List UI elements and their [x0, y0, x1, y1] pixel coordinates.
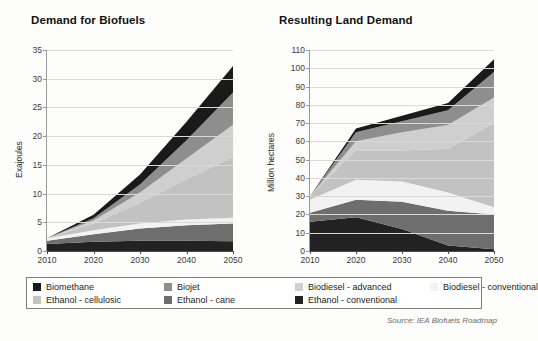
- y-tick-mark: [306, 160, 310, 161]
- legend-label: Biodiesel - conventional: [443, 282, 538, 292]
- y-tick-label: 80: [296, 101, 305, 110]
- x-tick-label: 2040: [177, 256, 196, 265]
- legend-swatch-icon: [430, 283, 438, 291]
- chart-title-demand: Demand for Biofuels: [31, 14, 145, 26]
- stacked-areas-demand: [47, 50, 233, 251]
- y-tick-mark: [306, 87, 310, 88]
- legend-item: Biomethane: [33, 282, 164, 292]
- y-tick-label: 100: [291, 64, 305, 73]
- y-tick-mark: [43, 194, 47, 195]
- legend-label: Ethanol - cellulosic: [46, 295, 121, 305]
- legend-grid: BiomethaneBiojetBiodiesel - advancedBiod…: [27, 278, 481, 308]
- y-tick-label: 10: [33, 189, 42, 198]
- y-tick-label: 20: [296, 210, 305, 219]
- grid-line: [47, 165, 233, 166]
- y-tick-label: 10: [296, 228, 305, 237]
- y-tick-label: 110: [291, 46, 305, 55]
- y-tick-mark: [43, 222, 47, 223]
- y-axis-label-land: Million hectares: [266, 133, 276, 192]
- grid-line: [47, 194, 233, 195]
- chart-panel-demand: Demand for Biofuels Exajoules 0510152025…: [0, 0, 255, 272]
- y-tick-mark: [306, 68, 310, 69]
- x-tick-mark: [402, 251, 403, 254]
- y-tick-label: 60: [296, 137, 305, 146]
- legend-item: Ethanol - cane: [164, 295, 295, 305]
- x-tick-label: 2050: [224, 256, 243, 265]
- y-tick-label: 40: [296, 174, 305, 183]
- grid-line: [47, 136, 233, 137]
- legend-swatch-icon: [164, 296, 172, 304]
- charts-container: Demand for Biofuels Exajoules 0510152025…: [0, 0, 509, 272]
- grid-line: [310, 196, 494, 197]
- x-tick-label: 2050: [485, 256, 504, 265]
- legend-swatch-icon: [295, 296, 303, 304]
- y-tick-mark: [306, 141, 310, 142]
- y-tick-label: 30: [296, 192, 305, 201]
- y-tick-label: 25: [33, 103, 42, 112]
- legend-label: Biojet: [177, 282, 200, 292]
- legend-swatch-icon: [33, 283, 41, 291]
- grid-line: [47, 222, 233, 223]
- grid-line: [310, 87, 494, 88]
- x-tick-label: 2010: [38, 256, 57, 265]
- x-tick-mark: [310, 251, 311, 254]
- legend-label: Biomethane: [46, 282, 94, 292]
- plot-area-demand: 0510152025303520102020203020402050: [46, 50, 233, 252]
- grid-line: [310, 214, 494, 215]
- stacked-areas-land: [310, 50, 494, 251]
- grid-line: [310, 233, 494, 234]
- legend-swatch-icon: [164, 283, 172, 291]
- grid-line: [47, 50, 233, 51]
- y-tick-label: 35: [33, 46, 42, 55]
- y-tick-label: 90: [296, 82, 305, 91]
- y-tick-mark: [43, 107, 47, 108]
- x-tick-label: 2020: [84, 256, 103, 265]
- y-axis-label-demand: Exajoules: [14, 141, 24, 178]
- x-tick-mark: [356, 251, 357, 254]
- x-tick-label: 2040: [439, 256, 458, 265]
- grid-line: [310, 50, 494, 51]
- y-tick-mark: [306, 233, 310, 234]
- legend: BiomethaneBiojetBiodiesel - advancedBiod…: [26, 277, 482, 309]
- y-tick-mark: [43, 136, 47, 137]
- y-tick-label: 30: [33, 74, 42, 83]
- chart-title-land: Resulting Land Demand: [279, 14, 413, 26]
- legend-label: Ethanol - conventional: [308, 295, 397, 305]
- grid-line: [310, 141, 494, 142]
- x-tick-mark: [494, 251, 495, 254]
- x-tick-mark: [233, 251, 234, 254]
- grid-line: [310, 68, 494, 69]
- y-tick-mark: [43, 165, 47, 166]
- legend-swatch-icon: [33, 296, 41, 304]
- source-note: Source: IEA Biofuels Roadmap: [387, 316, 497, 325]
- x-tick-mark: [187, 251, 188, 254]
- legend-item: Ethanol - conventional: [295, 295, 430, 305]
- y-tick-label: 0: [300, 247, 305, 256]
- y-tick-mark: [43, 50, 47, 51]
- legend-label: Ethanol - cane: [177, 295, 235, 305]
- x-tick-label: 2030: [393, 256, 412, 265]
- x-tick-mark: [47, 251, 48, 254]
- grid-line: [310, 123, 494, 124]
- x-tick-mark: [94, 251, 95, 254]
- grid-line: [310, 105, 494, 106]
- y-tick-label: 20: [33, 132, 42, 141]
- legend-item: Biodiesel - advanced: [295, 282, 430, 292]
- x-tick-label: 2020: [347, 256, 366, 265]
- legend-item: Biojet: [164, 282, 295, 292]
- y-tick-label: 50: [296, 155, 305, 164]
- x-tick-label: 2010: [301, 256, 320, 265]
- y-tick-label: 5: [37, 218, 42, 227]
- x-tick-mark: [140, 251, 141, 254]
- y-tick-mark: [306, 105, 310, 106]
- y-tick-mark: [306, 178, 310, 179]
- y-tick-label: 70: [296, 119, 305, 128]
- plot-area-land: 0102030405060708090100110201020202030204…: [309, 50, 494, 252]
- y-tick-mark: [306, 50, 310, 51]
- y-tick-label: 15: [33, 161, 42, 170]
- y-tick-label: 0: [37, 247, 42, 256]
- x-tick-mark: [448, 251, 449, 254]
- legend-swatch-icon: [295, 283, 303, 291]
- legend-item: Biodiesel - conventional: [430, 282, 538, 292]
